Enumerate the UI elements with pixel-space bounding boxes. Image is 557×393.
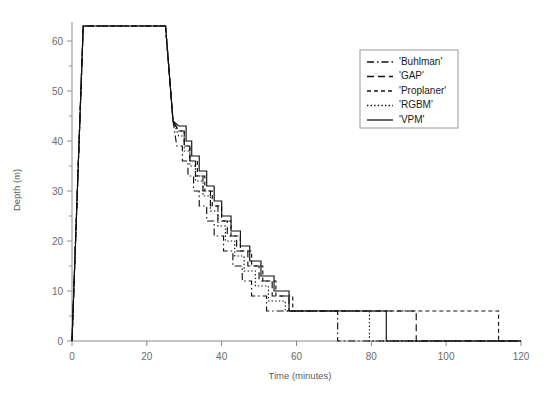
legend-label-1: 'GAP' [399, 70, 424, 81]
y-tick-label: 0 [57, 336, 63, 347]
y-tick-label: 30 [52, 186, 64, 197]
x-axis-title: Time (minutes) [269, 370, 332, 381]
y-tick-label: 60 [52, 36, 64, 47]
x-tick-label: 60 [291, 351, 303, 362]
y-tick-label: 50 [52, 86, 64, 97]
x-tick-label: 120 [513, 351, 530, 362]
y-tick-label: 20 [52, 236, 64, 247]
y-tick-label: 40 [52, 136, 64, 147]
x-tick-label: 80 [366, 351, 378, 362]
x-tick-label: 100 [438, 351, 455, 362]
x-tick-label: 40 [216, 351, 228, 362]
chart-svg: 0204060801001200102030405060 Time (minut… [0, 0, 557, 393]
legend-label-0: 'Buhlman' [399, 56, 442, 67]
legend-label-3: 'RGBM' [399, 99, 433, 110]
dive-profile-chart: 0204060801001200102030405060 Time (minut… [0, 0, 557, 393]
legend: 'Buhlman''GAP''Proplaner''RGBM''VPM' [360, 50, 458, 128]
y-axis-title: Depth (m) [11, 169, 22, 211]
x-tick-label: 20 [141, 351, 153, 362]
legend-label-2: 'Proplaner' [399, 85, 446, 96]
y-tick-label: 10 [52, 286, 64, 297]
x-tick-label: 0 [69, 351, 75, 362]
legend-label-4: 'VPM' [399, 114, 425, 125]
